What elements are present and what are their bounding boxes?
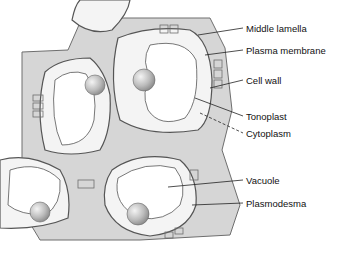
label-middle-lamella: Middle lamella — [246, 23, 307, 34]
label-cytoplasm: Cytoplasm — [246, 128, 291, 139]
label-cell-wall: Cell wall — [246, 75, 281, 86]
label-vacuole: Vacuole — [246, 175, 280, 186]
label-plasmodesma: Plasmodesma — [246, 198, 306, 209]
label-tonoplast: Tonoplast — [246, 111, 287, 122]
label-plasma-membrane: Plasma membrane — [246, 45, 326, 56]
plant-cell-diagram — [0, 0, 349, 255]
